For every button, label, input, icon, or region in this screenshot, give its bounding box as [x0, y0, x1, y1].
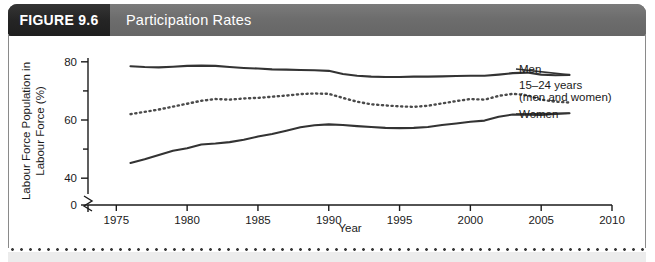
y-tick-label-0: 0: [71, 199, 77, 211]
x-axis-ticks: [116, 205, 612, 211]
x-tick-label-2005: 2005: [528, 214, 554, 226]
y-axis-title: Labour Force Population in Labour Force …: [20, 62, 46, 200]
x-tick-label-1980: 1980: [174, 214, 200, 226]
series-line-women: [130, 113, 569, 163]
y-axis-title-line2: Labour Force (%): [34, 86, 46, 176]
series-line-men: [130, 66, 569, 77]
x-tick-label-1985: 1985: [245, 214, 271, 226]
figure-number-label: FIGURE 9.6: [19, 12, 98, 28]
x-tick-label-1995: 1995: [387, 214, 413, 226]
x-tick-label-2000: 2000: [458, 214, 484, 226]
x-tick-label-2010: 2010: [599, 214, 625, 226]
y-tick-label-40: 40: [64, 172, 77, 184]
series-label-15-24-years-line1: 15–24 years: [519, 79, 583, 91]
figure-title: Participation Rates: [126, 4, 252, 36]
x-tick-label-1975: 1975: [104, 214, 130, 226]
series-label-women: Women: [519, 108, 558, 120]
y-axis-ticks: [81, 62, 88, 205]
y-tick-label-80: 80: [64, 56, 77, 68]
series-line-15-24-years: [130, 94, 569, 115]
x-axis-tick-labels: 19751980198519901995200020052010: [104, 214, 625, 226]
series-label-men: Men: [519, 63, 541, 75]
x-axis-title: Year: [338, 222, 361, 234]
frame-bottom-strip: [8, 252, 646, 262]
y-axis-tick-labels: 4060800: [64, 56, 77, 211]
figure-number-block: FIGURE 9.6: [8, 4, 110, 36]
y-tick-label-60: 60: [64, 114, 77, 126]
figure-header-bar: FIGURE 9.6 Participation Rates: [8, 4, 646, 36]
participation-rates-chart: 4060800 19751980198519901995200020052010…: [0, 34, 655, 247]
y-axis-title-line1: Labour Force Population in: [20, 62, 32, 200]
series-label-15-24-years-line2: (men and women): [519, 91, 612, 103]
figure-container: FIGURE 9.6 Participation Rates 4060800 1…: [0, 0, 655, 262]
